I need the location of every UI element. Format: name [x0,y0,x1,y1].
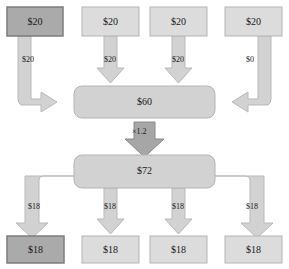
pool-out-label: $72 [137,165,152,176]
destination-node-3-label: $18 [171,244,186,255]
inflow-label-1: $20 [22,55,34,64]
destination-node-1[interactable]: $18 [7,236,64,263]
outflow-label-1: $18 [28,202,40,211]
multiplier-label: ×1.2 [132,127,147,136]
source-node-3-label: $20 [171,16,186,27]
source-node-4[interactable]: $20 [225,7,282,36]
outflow-label-4: $18 [246,202,258,211]
source-node-3[interactable]: $20 [150,7,207,36]
outflow-connector-1 [16,163,75,238]
pool-in-node[interactable]: $60 [74,86,215,118]
inflow-label-2: $20 [104,55,116,64]
outflow-connector-2 [97,188,124,234]
source-node-2[interactable]: $20 [82,7,139,36]
outflow-label-2: $18 [104,202,116,211]
destination-node-2[interactable]: $18 [82,236,139,263]
pool-in-label: $60 [137,96,152,107]
destination-node-2-label: $18 [103,244,118,255]
destination-node-1-label: $18 [28,244,43,255]
outflow-connector-4 [214,163,273,238]
source-node-2-label: $20 [103,16,118,27]
outflow-connector-3 [165,188,192,234]
flow-diagram-svg: $20 $20 $20 $20 $60 $72 $18 [0,0,289,269]
source-node-1-label: $20 [28,16,43,27]
inflow-label-3: $20 [172,55,184,64]
destination-node-3[interactable]: $18 [150,236,207,263]
inflow-connector-4 [232,36,271,112]
source-node-1[interactable]: $20 [7,7,63,36]
destination-node-4-label: $18 [246,244,261,255]
flow-diagram-canvas: $20 $20 $20 $20 $60 $72 $18 [0,0,289,269]
outflow-label-3: $18 [172,202,184,211]
destination-node-4[interactable]: $18 [225,236,282,263]
source-node-4-label: $20 [246,16,261,27]
inflow-connector-1 [18,36,57,112]
pool-out-node[interactable]: $72 [74,155,215,188]
inflow-label-4: $0 [246,55,254,64]
